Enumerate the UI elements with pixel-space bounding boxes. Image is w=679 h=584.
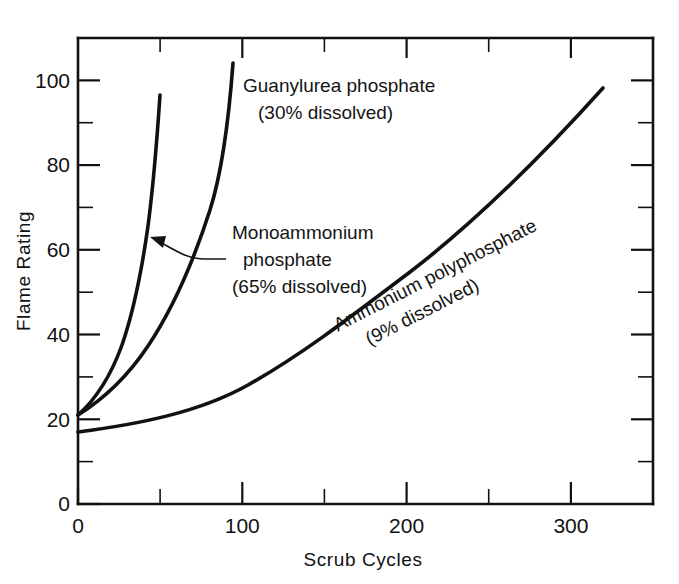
guanylurea-annotation-line-1: Guanylurea phosphate [243,75,435,96]
guanylurea-annotation-line-2: (30% dissolved) [258,102,393,123]
y-tick-label-60: 60 [47,238,70,261]
y-tick-label-40: 40 [47,323,70,346]
monoammonium-annotation-line-2: phosphate [243,249,332,270]
x-tick-label-100: 100 [225,514,260,537]
series-curve-monoammonium-phosphate [78,95,160,415]
x-axis-minor-ticks [160,489,489,504]
y-tick-label-80: 80 [47,153,70,176]
y-axis-title: Flame Rating [13,211,34,331]
monoammonium-arrow-head [150,236,166,248]
flame-rating-vs-scrub-cycles-chart: 0 20 40 60 80 100 [0,0,679,584]
x-axis-top-ticks [160,38,571,58]
y-tick-label-100: 100 [35,69,70,92]
y-axis-tick-labels: 0 20 40 60 80 100 [35,69,70,515]
monoammonium-leader-line [156,240,226,259]
x-tick-label-0: 0 [72,514,84,537]
monoammonium-annotation-line-3: (65% dissolved) [232,276,367,297]
x-tick-label-200: 200 [389,514,424,537]
x-axis-title: Scrub Cycles [303,549,422,570]
y-tick-label-20: 20 [47,408,70,431]
monoammonium-annotation-line-1: Monoammonium [232,222,374,243]
y-tick-label-0: 0 [58,492,70,515]
y-axis-right-ticks [631,80,653,461]
x-axis-tick-labels: 0 100 200 300 [72,514,588,537]
guanylurea-annotation: Guanylurea phosphate (30% dissolved) [243,75,435,123]
x-tick-label-300: 300 [553,514,588,537]
chart-figure: 0 20 40 60 80 100 [0,0,679,584]
monoammonium-annotation: Monoammonium phosphate (65% dissolved) [150,222,374,297]
